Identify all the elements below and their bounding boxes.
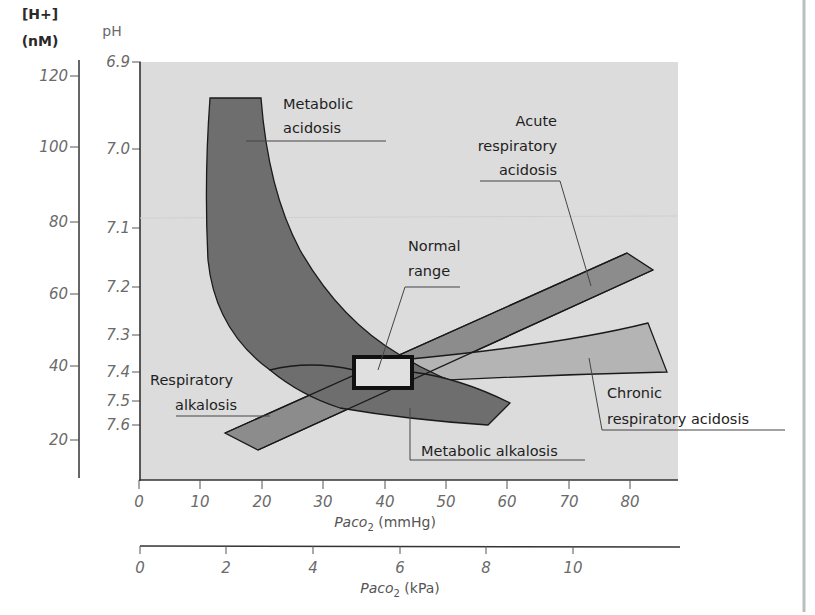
h-plus-axis-title: [H+] (22, 6, 58, 22)
ph-tick: 7.2 (106, 278, 130, 296)
kpa-axis-label: Paco2 (kPa) (360, 580, 440, 599)
ph-tick: 6.9 (106, 53, 130, 71)
ph-axis-title: pH (102, 23, 121, 39)
kpa-tick: 6 (395, 559, 405, 577)
acute-respiratory-acidosis-label: Acute (516, 113, 558, 129)
mmhg-tick: 20 (252, 493, 271, 511)
chronic-respiratory-acidosis-label: respiratory acidosis (607, 411, 749, 427)
kpa-tick: 4 (308, 559, 318, 577)
paco2-mmhg-axis: 0 10 20 30 40 50 60 70 80 Paco2 (mmHg) (134, 480, 639, 533)
ph-tick: 7.0 (106, 140, 130, 158)
kpa-tick: 8 (481, 559, 491, 577)
kpa-tick: 2 (221, 559, 231, 577)
normal-range-label: range (408, 263, 450, 279)
mmhg-tick: 70 (559, 493, 578, 511)
h-plus-tick: 80 (49, 213, 68, 231)
normal-range-label: Normal (408, 238, 460, 254)
mmhg-tick: 10 (190, 493, 209, 511)
mmhg-axis-label: Paco2 (mmHg) (334, 514, 436, 533)
ph-axis: pH 6.9 7.0 7.1 7.2 7.3 7.4 7.5 7.6 (102, 23, 141, 434)
ph-tick: 7.3 (106, 326, 130, 344)
kpa-tick: 0 (135, 559, 145, 577)
normal-range-box (354, 357, 412, 388)
h-plus-axis-unit: (nM) (22, 33, 59, 49)
h-plus-tick: 40 (49, 357, 68, 375)
mmhg-tick: 80 (620, 493, 639, 511)
respiratory-alkalosis-label: Respiratory (150, 372, 233, 388)
acute-respiratory-acidosis-label: acidosis (499, 162, 557, 178)
mmhg-tick: 60 (497, 493, 516, 511)
ph-tick: 7.1 (106, 219, 130, 237)
chronic-respiratory-acidosis-label: Chronic (607, 385, 662, 401)
ph-tick: 7.4 (106, 363, 130, 381)
acute-respiratory-acidosis-label: respiratory (478, 138, 558, 154)
mmhg-tick: 30 (313, 493, 332, 511)
h-plus-tick: 60 (49, 285, 68, 303)
paco2-kpa-axis: 0 2 4 6 8 10 Paco2 (kPa) (135, 546, 680, 599)
mmhg-tick: 40 (375, 493, 394, 511)
ph-ticks: 6.9 7.0 7.1 7.2 7.3 7.4 7.5 7.6 (106, 53, 141, 434)
h-plus-axis: [H+] (nM) 120 100 80 60 40 20 (22, 6, 79, 478)
h-plus-ticks: 120 100 80 60 40 20 (39, 67, 79, 449)
mmhg-tick: 0 (134, 493, 144, 511)
ph-tick: 7.5 (106, 392, 130, 410)
ph-tick: 7.6 (106, 416, 130, 434)
acid-base-nomogram: [H+] (nM) 120 100 80 60 40 20 pH 6.9 7.0… (0, 0, 815, 615)
h-plus-tick: 120 (39, 67, 68, 85)
kpa-tick: 10 (563, 559, 582, 577)
metabolic-alkalosis-label: Metabolic alkalosis (421, 443, 558, 459)
metabolic-acidosis-label: acidosis (283, 120, 341, 136)
h-plus-tick: 100 (39, 138, 68, 156)
h-plus-tick: 20 (49, 431, 68, 449)
metabolic-acidosis-label: Metabolic (283, 96, 353, 112)
respiratory-alkalosis-label: alkalosis (175, 397, 237, 413)
mmhg-tick: 50 (436, 493, 455, 511)
